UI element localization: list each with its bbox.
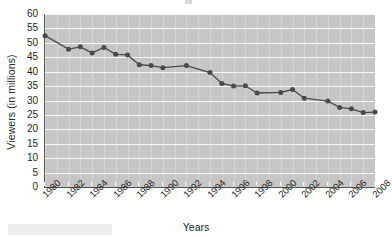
data-point-marker (278, 90, 283, 95)
y-tick-label: 60 (14, 9, 38, 19)
data-point-marker (149, 63, 154, 68)
data-point-marker (302, 96, 307, 101)
y-tick-label: 35 (14, 81, 38, 91)
data-point-marker (125, 52, 130, 57)
data-point-marker (337, 105, 342, 110)
y-tick-label: 50 (14, 38, 38, 48)
line-series (45, 14, 375, 187)
data-point-marker (43, 33, 48, 38)
caption-placeholder-bar (8, 224, 112, 235)
data-point-marker (78, 44, 83, 49)
data-point-marker (113, 52, 118, 57)
data-point-marker (219, 81, 224, 86)
x-tick-mark (115, 182, 116, 186)
chart-figure: Viewers (in millions) 605550454035302520… (0, 0, 392, 237)
plot-area (44, 14, 375, 188)
title-descender-sliver (185, 0, 192, 4)
data-point-marker (184, 63, 189, 68)
y-tick-label: 0 (14, 182, 38, 192)
data-point-marker (90, 50, 95, 55)
y-tick-label: 5 (14, 168, 38, 178)
y-tick-label: 10 (14, 153, 38, 163)
x-tick-mark (280, 182, 281, 186)
y-tick-label: 20 (14, 124, 38, 134)
data-point-marker (208, 70, 213, 75)
data-point-marker (325, 99, 330, 104)
y-tick-label: 40 (14, 67, 38, 77)
data-point-marker (255, 91, 260, 96)
data-point-marker (290, 87, 295, 92)
data-point-marker (66, 47, 71, 52)
data-point-marker (349, 106, 354, 111)
data-point-marker (373, 110, 378, 115)
gridline-vertical (375, 14, 376, 187)
data-point-marker (160, 65, 165, 70)
data-point-marker (231, 84, 236, 89)
data-point-marker (243, 83, 248, 88)
x-tick-mark (233, 182, 234, 186)
y-tick-label: 15 (14, 139, 38, 149)
x-tick-mark (68, 182, 69, 186)
y-tick-label: 55 (14, 23, 38, 33)
data-point-marker (137, 62, 142, 67)
y-tick-label: 30 (14, 96, 38, 106)
y-tick-label: 25 (14, 110, 38, 120)
y-tick-label: 45 (14, 52, 38, 62)
data-point-marker (361, 110, 366, 115)
data-point-marker (101, 45, 106, 50)
